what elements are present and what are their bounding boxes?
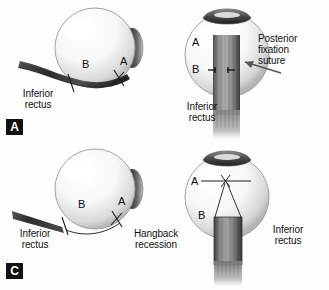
label-point-b: B — [78, 198, 85, 210]
label-point-b: B — [192, 63, 199, 75]
panel-b: A B Posterior fixation suture Inferior r… — [165, 0, 329, 145]
globe-highlight — [63, 160, 97, 182]
label-point-a: A — [120, 55, 127, 67]
cornea-highlight — [214, 12, 240, 18]
label-inferior-rectus: Inferior rectus — [8, 88, 68, 110]
panel-a-artwork — [0, 0, 164, 145]
label-point-b: B — [82, 58, 89, 70]
label-inferior-rectus: Inferior rectus — [173, 101, 231, 123]
panel-tag-c: C — [6, 263, 23, 279]
label-point-a: A — [118, 195, 125, 207]
label-point-a: A — [191, 175, 198, 187]
label-posterior-fixation-suture: Posterior fixation suture — [258, 33, 297, 66]
surgical-figure: B A Inferior rectus A — [0, 0, 329, 290]
label-inferior-rectus: Inferior rectus — [259, 224, 317, 246]
panel-tag-a: A — [6, 119, 23, 135]
panel-a: B A Inferior rectus A — [0, 0, 164, 145]
label-point-b: B — [198, 209, 205, 221]
panel-b-artwork — [165, 0, 329, 145]
panel-c-artwork — [0, 145, 164, 290]
label-hangback-recession: Hangback recession — [125, 228, 187, 250]
label-inferior-rectus: Inferior rectus — [4, 228, 66, 250]
label-point-a: A — [192, 36, 199, 48]
globe-shape — [55, 149, 135, 229]
panel-d: A B Inferior rectus — [165, 145, 329, 290]
cornea-highlight — [214, 154, 240, 160]
panel-c: B A Inferior rectus C — [0, 145, 164, 290]
globe-shape — [55, 8, 135, 88]
panel-d-artwork — [165, 145, 329, 290]
globe-highlight — [63, 19, 97, 41]
